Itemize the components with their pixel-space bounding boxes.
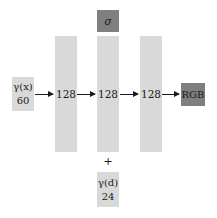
input-x-label: γ(x) (13, 80, 32, 94)
rgb-output-box: RGB (181, 83, 205, 106)
input-direction-encoding-box: γ(d) 24 (97, 172, 119, 207)
input-d-label: γ(d) (98, 176, 118, 190)
layer-3-units: 128 (140, 88, 162, 100)
nerf-mlp-diagram: γ(x) 60 128 128 128 σ RGB + γ(d) 24 (0, 0, 217, 218)
layer-2-units: 128 (97, 88, 119, 100)
arrow-layer3-to-rgb (162, 94, 179, 95)
sigma-output-box: σ (97, 10, 119, 32)
arrow-layer2-to-layer3 (120, 94, 138, 95)
arrow-input-to-layer1 (35, 94, 53, 95)
layer-1-units: 128 (55, 88, 77, 100)
input-x-dim: 60 (17, 94, 30, 108)
arrow-layer1-to-layer2 (77, 94, 95, 95)
sigma-label: σ (104, 15, 111, 28)
input-position-encoding-box: γ(x) 60 (12, 77, 34, 111)
input-d-dim: 24 (102, 190, 115, 204)
concat-plus-symbol: + (97, 155, 119, 168)
rgb-label: RGB (182, 88, 205, 101)
